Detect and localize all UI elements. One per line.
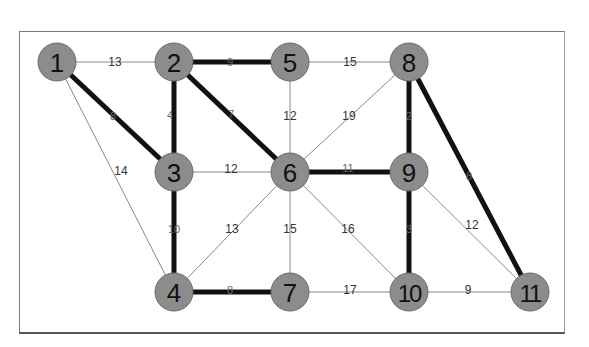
edge-weight-8-9: 2 [406, 110, 412, 122]
edge-weight-1-3: 8 [110, 110, 116, 122]
node-10: 10 [390, 273, 428, 311]
node-6: 6 [271, 153, 309, 191]
node-label: 10 [398, 280, 422, 307]
edge-weight-1-4: 14 [114, 164, 128, 178]
edge-weight-9-10: 3 [406, 223, 412, 235]
node-label: 9 [402, 158, 416, 188]
node-label: 5 [283, 48, 297, 78]
edge-weight-6-10: 16 [341, 222, 355, 236]
edge-9-11 [409, 172, 530, 292]
edge-weight-4-6: 13 [225, 222, 239, 236]
node-label: 7 [283, 278, 297, 308]
node-7: 7 [271, 273, 309, 311]
node-label: 11 [520, 280, 543, 307]
node-label: 2 [167, 48, 181, 78]
edge-weight-6-9: 11 [342, 162, 353, 174]
node-9: 9 [390, 153, 428, 191]
node-label: 6 [283, 158, 297, 188]
node-1: 1 [38, 43, 76, 81]
node-label: 1 [50, 48, 64, 78]
edge-weight-2-3: 4 [167, 109, 173, 121]
node-11: 11 [511, 273, 549, 311]
node-label: 3 [167, 158, 181, 188]
edge-weight-10-11: 9 [465, 283, 472, 297]
edge-weight-4-7: 8 [227, 284, 233, 296]
edge-weight-9-11: 12 [465, 218, 479, 232]
graph-canvas: 13814947151219121128101315163128179 1234… [0, 0, 589, 347]
edge-weight-2-6: 7 [228, 108, 234, 120]
node-2: 2 [155, 43, 193, 81]
edge-weight-7-10: 17 [343, 283, 357, 297]
node-4: 4 [155, 273, 193, 311]
edge-weight-3-6: 12 [224, 162, 238, 176]
node-label: 4 [167, 278, 181, 308]
node-8: 8 [390, 43, 428, 81]
node-5: 5 [271, 43, 309, 81]
edge-weight-3-4: 10 [168, 223, 180, 235]
edge-weight-6-8: 19 [342, 109, 356, 123]
edge-weight-2-5: 9 [227, 56, 233, 68]
edge-weight-8-11: 8 [466, 170, 472, 182]
node-3: 3 [155, 153, 193, 191]
node-label: 8 [402, 48, 416, 78]
edge-weight-5-6: 12 [283, 109, 297, 123]
edge-weight-5-8: 15 [343, 55, 357, 69]
edge-weight-6-7: 15 [283, 222, 297, 236]
edge-weight-1-2: 13 [108, 55, 122, 69]
